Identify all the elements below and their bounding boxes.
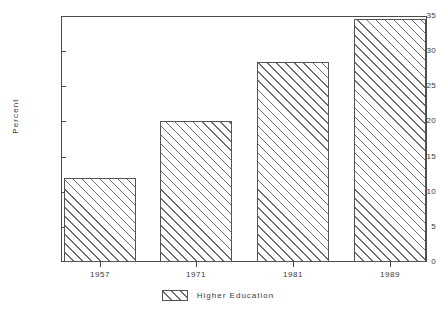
x-tick-mark-1981 <box>293 262 294 267</box>
legend-swatch-higher-education <box>162 290 188 301</box>
x-tick-label-1989: 1989 <box>360 270 420 279</box>
bar-1971 <box>160 121 232 262</box>
x-tick-mark-1971 <box>196 262 197 267</box>
x-tick-mark-1957 <box>100 262 101 267</box>
bar-1981 <box>257 62 329 262</box>
x-tick-label-1957: 1957 <box>70 270 130 279</box>
legend-label-higher-education: Higher Education <box>197 291 274 300</box>
bar-1957 <box>64 178 136 262</box>
x-tick-label-1971: 1971 <box>166 270 226 279</box>
bar-1989 <box>354 19 426 262</box>
bar-chart: Percent 35 30 25 20 15 10 5 0 1957 1971 … <box>0 0 436 314</box>
x-tick-mark-1989 <box>390 262 391 267</box>
legend: Higher Education <box>0 290 436 301</box>
y-axis-title: Percent <box>12 88 20 144</box>
x-tick-label-1981: 1981 <box>263 270 323 279</box>
